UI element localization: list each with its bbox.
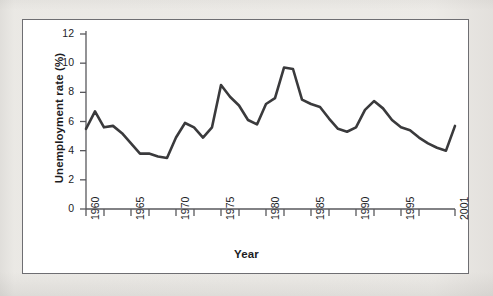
line-chart-plot <box>23 20 470 275</box>
figure-root: Unemployment rate (%) Year 024681012 196… <box>0 0 493 296</box>
data-series-group <box>86 68 455 158</box>
axes-group <box>80 31 455 216</box>
chart-frame: Unemployment rate (%) Year 024681012 196… <box>22 19 469 274</box>
unemployment-rate-line <box>86 68 455 158</box>
